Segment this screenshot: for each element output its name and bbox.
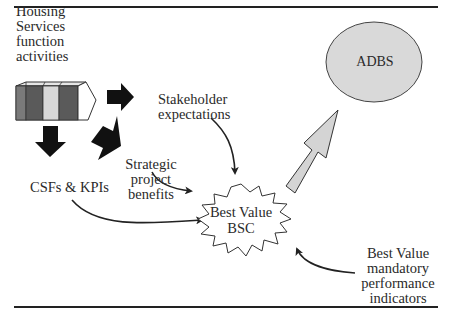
stakeholder-line-1: Stakeholder <box>158 92 230 107</box>
housing-line-2: Services <box>16 19 68 34</box>
mandatory-line-4: indicators <box>356 291 440 306</box>
csfs-kpis-label: CSFs & KPIs <box>30 180 109 195</box>
block-arrow-down-icon <box>35 126 66 157</box>
housing-line-1: Housing <box>16 4 68 19</box>
strategic-line-3: benefits <box>116 187 186 202</box>
stakeholder-to-bsc-connector <box>211 118 235 173</box>
bottom-rule <box>14 306 438 308</box>
csfs-line-1: CSFs & KPIs <box>30 180 109 195</box>
stakeholder-expectations-label: Stakeholder expectations <box>158 92 230 122</box>
housing-line-4: activities <box>16 49 68 64</box>
bsc-label: Best Value BSC <box>196 204 286 236</box>
mandatory-to-bsc-connector <box>297 249 355 273</box>
csfs-to-bsc-connector <box>72 200 202 223</box>
adbs-label: ADBS <box>345 54 405 70</box>
block-arrow-right-icon <box>107 83 134 111</box>
bsc-line-2: BSC <box>196 220 286 236</box>
hollow-arrow-to-adbs-icon <box>286 110 338 193</box>
stakeholder-line-2: expectations <box>158 107 230 122</box>
block-arrow-diagonal-icon <box>91 116 121 160</box>
mandatory-line-3: performance <box>356 276 440 291</box>
mandatory-line-2: mandatory <box>356 261 440 276</box>
strategic-line-1: Strategic <box>116 157 186 172</box>
strategic-benefits-label: Strategic project benefits <box>116 157 186 202</box>
mandatory-indicators-label: Best Value mandatory performance indicat… <box>356 246 440 306</box>
bsc-line-1: Best Value <box>196 204 286 220</box>
strategic-line-2: project <box>116 172 186 187</box>
mandatory-line-1: Best Value <box>356 246 440 261</box>
housing-activities-label: Housing Services function activities <box>16 4 68 64</box>
housing-activities-block-icon <box>16 82 96 120</box>
housing-line-3: function <box>16 34 68 49</box>
